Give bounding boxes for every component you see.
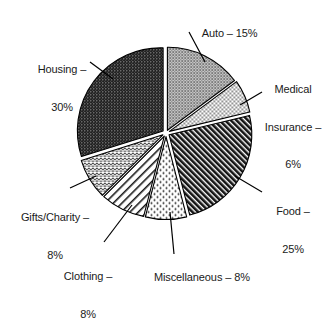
slice-label-gifts-charity-line2: 8% <box>2 249 108 262</box>
slice-label-food-line2: 25% <box>262 243 324 256</box>
slice-label-housing-line2: 30% <box>18 101 106 114</box>
slice-label-medical-insurance-line1: Medical <box>256 83 330 96</box>
slice-label-medical-insurance-line3: 6% <box>256 158 330 171</box>
slice-label-gifts-charity: Gifts/Charity – 8% <box>2 186 108 286</box>
slice-label-food-line1: Food – <box>262 205 324 218</box>
slice-label-housing-line1: Housing – <box>18 63 106 76</box>
slice-label-clothing-line2: 8% <box>44 308 132 321</box>
slice-label-auto: Auto – 15% <box>178 14 270 52</box>
slice-label-food: Food – 25% <box>262 180 324 280</box>
slice-label-housing: Housing – 30% <box>18 38 106 138</box>
leader-line-clothing <box>104 205 132 242</box>
slice-label-miscellaneous-text: Miscellaneous – 8% <box>154 271 250 283</box>
slice-label-miscellaneous: Miscellaneous – 8% <box>128 258 264 296</box>
slice-label-medical-insurance-line2: Insurance – <box>256 121 330 134</box>
slice-label-medical-insurance: Medical Insurance – 6% <box>256 58 330 196</box>
slice-label-gifts-charity-line1: Gifts/Charity – <box>2 211 108 224</box>
slice-label-auto-text: Auto – 15% <box>202 27 258 39</box>
